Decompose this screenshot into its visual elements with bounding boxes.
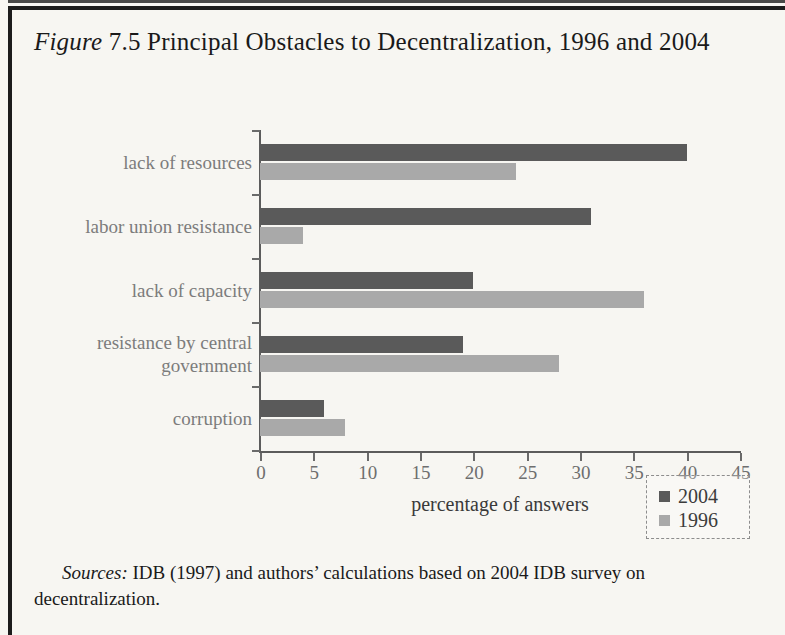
- legend: 2004 1996: [646, 475, 750, 539]
- bar-1996-resistance-by-central-government: [260, 355, 559, 372]
- y-axis-tick: [252, 194, 260, 196]
- x-axis-tick: [260, 453, 262, 461]
- x-axis-tick-label: 30: [561, 462, 601, 484]
- legend-item-1996: 1996: [659, 508, 749, 532]
- x-axis-tick: [527, 453, 529, 461]
- x-axis-tick: [367, 453, 369, 461]
- bar-2004-corruption: [260, 400, 324, 417]
- bar-chart: lack of resourceslabor union resistancel…: [0, 112, 785, 522]
- y-axis-tick: [252, 130, 260, 132]
- y-axis-tick: [252, 386, 260, 388]
- bar-1996-lack-of-capacity: [260, 291, 644, 308]
- legend-swatch-1996-icon: [659, 515, 670, 526]
- legend-swatch-2004-icon: [659, 491, 670, 502]
- bar-2004-resistance-by-central-government: [260, 336, 463, 353]
- y-axis-tick: [252, 258, 260, 260]
- x-axis-tick: [420, 453, 422, 461]
- bar-1996-lack-of-resources: [260, 163, 516, 180]
- bar-2004-lack-of-capacity: [260, 272, 473, 289]
- x-axis-tick: [313, 453, 315, 461]
- x-axis-tick: [740, 453, 742, 461]
- category-label-lack-of-resources: lack of resources: [22, 151, 252, 174]
- legend-label-1996: 1996: [678, 509, 718, 532]
- figure-title: Figure 7.5 Principal Obstacles to Decent…: [34, 26, 734, 58]
- x-axis-tick-label: 0: [241, 462, 281, 484]
- y-axis-tick: [252, 322, 260, 324]
- x-axis-tick: [473, 453, 475, 461]
- x-axis-tick-label: 15: [401, 462, 441, 484]
- x-axis-tick: [633, 453, 635, 461]
- category-label-lack-of-capacity: lack of capacity: [22, 279, 252, 302]
- x-axis-tick-label: 20: [454, 462, 494, 484]
- figure-title-text: Principal Obstacles to Decentralization,…: [147, 28, 710, 55]
- figure-number: 7.5: [109, 28, 141, 55]
- x-axis-tick-label: 25: [508, 462, 548, 484]
- x-axis-tick: [687, 453, 689, 461]
- legend-label-2004: 2004: [678, 485, 718, 508]
- page-edge-top: [8, 6, 785, 10]
- legend-item-2004: 2004: [659, 484, 749, 508]
- bar-2004-lack-of-resources: [260, 144, 687, 161]
- plot-area: [260, 130, 740, 450]
- page-edge-top-outer: [8, 0, 785, 3]
- sources-note: Sources: IDB (1997) and authors’ calcula…: [34, 560, 750, 612]
- figure-label: Figure: [34, 28, 102, 55]
- bar-1996-labor-union-resistance: [260, 227, 303, 244]
- x-axis-tick-label: 5: [294, 462, 334, 484]
- category-label-corruption: corruption: [22, 407, 252, 430]
- x-axis-tick: [580, 453, 582, 461]
- category-label-labor-union-resistance: labor union resistance: [22, 215, 252, 238]
- category-label-resistance-by-central-government: resistance by central government: [22, 331, 252, 377]
- sources-label: Sources:: [62, 562, 128, 583]
- bar-2004-labor-union-resistance: [260, 208, 591, 225]
- y-axis-tick: [252, 450, 260, 452]
- x-axis-tick-label: 10: [348, 462, 388, 484]
- x-axis-line: [259, 451, 741, 453]
- bar-1996-corruption: [260, 419, 345, 436]
